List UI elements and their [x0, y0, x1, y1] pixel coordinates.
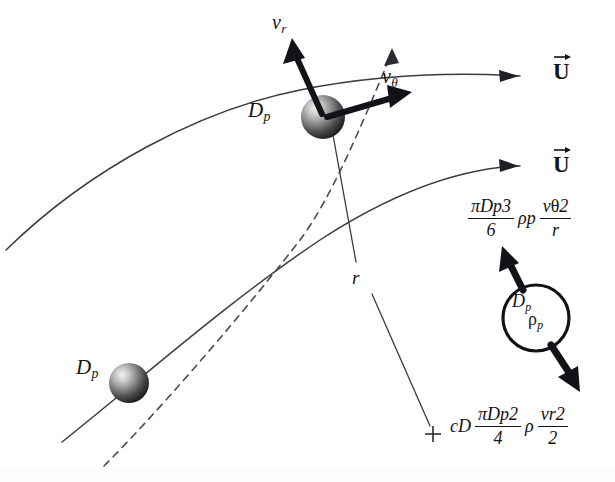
- centrifugal-volume-fraction: πDp3 6: [468, 196, 514, 241]
- drag-force-equation: cD πDp2 4 ρ vr2 2: [448, 404, 570, 449]
- scan-edge-band: [0, 470, 615, 482]
- centrifugal-force-equation: πDp3 6 ρp vθ2 r: [466, 196, 573, 241]
- drag-area-fraction: πDp2 4: [475, 404, 521, 449]
- velocity-tangential-arrow: [327, 85, 412, 117]
- streamline-upper: [6, 70, 520, 250]
- vector-arrow-icon: [554, 145, 571, 154]
- radius-label: r: [352, 268, 359, 287]
- vector-arrow-icon: [554, 52, 571, 61]
- velocity-tangential-label: vθ: [382, 66, 398, 89]
- free-body-density-label: ρp: [528, 310, 543, 332]
- centrifugal-velocity-fraction: vθ2 r: [540, 196, 572, 241]
- drag-force-arrow: [551, 345, 580, 392]
- drag-coefficient-term: cD: [450, 417, 471, 435]
- drag-velocity-fraction: vr2 2: [538, 404, 568, 449]
- velocity-radial-label: vr: [272, 12, 286, 35]
- rotation-center-marker: [425, 426, 441, 442]
- centrifugal-density-term: ρp: [518, 209, 536, 227]
- drag-density-term: ρ: [525, 417, 534, 435]
- centrifugal-force-arrow: [499, 246, 523, 290]
- flow-velocity-label-upper: U: [553, 59, 570, 85]
- particle-sphere-lower: [109, 363, 149, 403]
- particle-diameter-label-lower: Dp: [76, 357, 98, 381]
- radius-line: [331, 124, 430, 426]
- particle-sphere-upper: [301, 95, 345, 139]
- particle-diameter-label-upper: Dp: [248, 100, 270, 124]
- velocity-radial-arrow: [283, 38, 322, 114]
- flow-velocity-label-lower: U: [553, 152, 570, 178]
